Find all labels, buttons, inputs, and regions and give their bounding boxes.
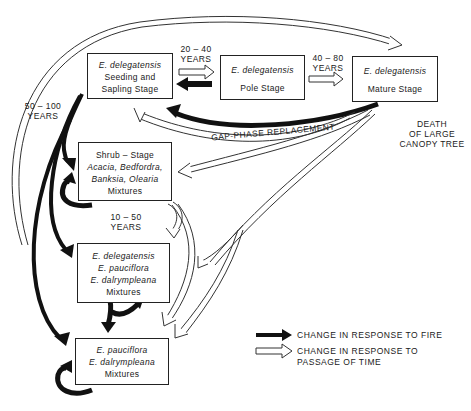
label-of-large: OF LARGE — [392, 129, 471, 139]
label-50-100-years: 50 – 100 YEARS — [20, 101, 66, 121]
mix1-species1: E. delegatensis — [78, 250, 169, 262]
mix1-species3: E. dalrympleana — [78, 274, 169, 286]
fire-arrow-mix1-to-mix2 — [101, 300, 116, 333]
label-years: YEARS — [106, 222, 146, 232]
pole-species: E. delegatensis — [221, 64, 304, 76]
label-years: YEARS — [176, 54, 216, 64]
box-seedling-stage: E. delegatensis Seeding and Sapling Stag… — [87, 53, 173, 99]
seedling-species: E. delegatensis — [88, 59, 172, 71]
legend-fire-arrow — [256, 329, 292, 341]
mix1-line1: Mixtures — [78, 286, 169, 298]
seedling-line2: Sapling Stage — [88, 83, 172, 95]
mature-line1: Mature Stage — [353, 83, 437, 95]
label-death: DEATH — [392, 119, 471, 129]
shrub-line1: Shrub – Stage — [79, 149, 171, 161]
shrub-species2: Banksia, Olearia — [79, 173, 171, 185]
label-40-80: 40 – 80 — [308, 53, 348, 63]
box-mix1: E. delegatensis E. pauciflora E. dalrymp… — [77, 243, 170, 303]
seedling-line1: Seeding and — [88, 71, 172, 83]
mix1-species2: E. pauciflora — [78, 262, 169, 274]
label-50-100: 50 – 100 — [20, 101, 66, 111]
mature-species: E. delegatensis — [353, 65, 437, 77]
time-arrow-to-mix1-head — [198, 225, 243, 268]
fire-arrow-shrub-head — [62, 158, 76, 171]
legend-time-label: CHANGE IN RESPONSE TO PASSAGE OF TIME — [297, 346, 418, 368]
legend-time-arrow — [256, 344, 292, 358]
label-40-80-years: 40 – 80 YEARS — [308, 53, 348, 73]
label-10-50-years: 10 – 50 YEARS — [106, 212, 146, 232]
time-arrow-mature-to-mix2 — [175, 230, 243, 338]
label-canopy-tree: CANOPY TREE — [392, 139, 471, 149]
label-years: YEARS — [20, 111, 66, 121]
legend-time-line1: CHANGE IN RESPONSE TO — [297, 346, 418, 357]
legend-time-line2: PASSAGE OF TIME — [297, 357, 418, 368]
legend-fire-label: CHANGE IN RESPONSE TO FIRE — [297, 330, 442, 341]
shrub-species1: Acacia, Bedfordra, — [79, 161, 171, 173]
label-death-of-canopy-tree: DEATH OF LARGE CANOPY TREE — [392, 119, 471, 149]
mix2-species2: E. dalrympleana — [76, 356, 168, 368]
fire-arrow-pole-to-seedling — [176, 77, 212, 91]
label-10-50: 10 – 50 — [106, 212, 146, 222]
box-shrub-stage: Shrub – Stage Acacia, Bedfordra, Banksia… — [78, 142, 172, 201]
label-20-40-years: 20 – 40 YEARS — [176, 44, 216, 64]
box-pole-stage: E. delegatensis Pole Stage — [220, 55, 305, 100]
box-mix2: E. pauciflora E. dalrympleana Mixtures — [75, 338, 169, 385]
pole-line1: Pole Stage — [221, 82, 304, 94]
mix2-line1: Mixtures — [76, 368, 168, 380]
shrub-line2: Mixtures — [79, 185, 171, 197]
box-mature-stage: E. delegatensis Mature Stage — [352, 56, 438, 102]
label-20-40: 20 – 40 — [176, 44, 216, 54]
time-arrow-pole-to-mature — [309, 72, 343, 86]
label-years: YEARS — [308, 63, 348, 73]
time-arrow-seedling-to-pole — [179, 65, 214, 79]
mix2-species1: E. pauciflora — [76, 344, 168, 356]
